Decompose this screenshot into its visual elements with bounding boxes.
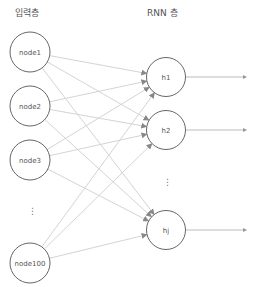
input-layer-header: 입력층 <box>15 7 39 18</box>
output-arrows <box>186 77 246 230</box>
node-label: hj <box>163 227 169 235</box>
edge-node1-hj <box>42 68 154 214</box>
node-label: h2 <box>162 127 171 135</box>
edge-node3-hj <box>48 169 148 221</box>
input-node-node1: node1 <box>10 32 50 72</box>
hidden-node-hj: hj <box>147 211 186 250</box>
node-label: h1 <box>162 74 171 82</box>
hidden-nodes: h1h2hj <box>147 58 186 250</box>
edge-node1-h1 <box>50 56 147 74</box>
edge-node2-hj <box>45 119 151 216</box>
input-ellipsis: ⋮ <box>28 206 37 216</box>
node-label: node2 <box>19 103 41 111</box>
node-label: node1 <box>19 49 41 57</box>
hidden-node-h2: h2 <box>147 111 186 150</box>
input-node-node100: node100 <box>10 243 50 283</box>
input-node-node3: node3 <box>10 140 50 180</box>
node-label: node100 <box>15 260 46 268</box>
rnn-diagram: 입력층 RNN 층 node1node2node3node100 h1h2hj … <box>0 0 257 287</box>
connection-edges <box>42 56 154 259</box>
edge-node100-hj <box>49 235 146 259</box>
hidden-node-h1: h1 <box>147 58 186 97</box>
edge-node100-h1 <box>42 93 154 247</box>
node-label: node3 <box>19 157 41 165</box>
edge-node100-h2 <box>44 144 151 249</box>
rnn-layer-header: RNN 층 <box>147 8 178 18</box>
input-node-node2: node2 <box>10 86 50 126</box>
hidden-ellipsis: ⋮ <box>163 177 172 187</box>
edge-node2-h1 <box>50 81 147 102</box>
